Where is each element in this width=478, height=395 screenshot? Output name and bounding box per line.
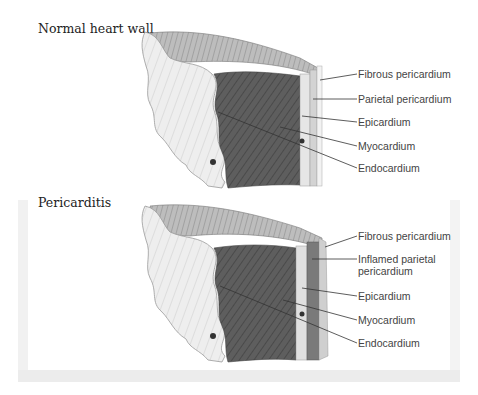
myocardium-layer [214,72,300,188]
label-myocardium: Myocardium [358,140,415,152]
parietal-pericardium-layer [310,70,317,186]
vessel [300,312,305,317]
label-parietal-pericardium: Parietal pericardium [358,93,451,105]
label-inflamed-parietal-line1: Inflamed parietal [358,253,436,265]
label-endocardium: Endocardium [358,162,420,174]
label-epicardium: Epicardium [358,290,411,302]
label-fibrous-pericardium: Fibrous pericardium [358,68,451,80]
label-inflamed-parietal-line2: pericardium [358,265,413,277]
epicardium-layer [300,74,310,186]
label-myocardium: Myocardium [358,314,415,326]
label-fibrous-pericardium: Fibrous pericardium [358,230,451,242]
label-epicardium: Epicardium [358,116,411,128]
myocardium-layer [214,245,296,362]
normal-heart-wall-illustration [142,32,357,188]
fibrous-pericardium-layer [319,238,328,360]
vessel [210,333,216,339]
inflamed-parietal-pericardium-layer [307,242,319,360]
pericarditis-illustration [142,205,357,362]
label-endocardium: Endocardium [358,337,420,349]
vessel [300,139,305,144]
epicardium-layer [296,246,307,360]
vessel [210,159,216,165]
heart-wall-illustrations [0,0,478,395]
fibrous-pericardium-layer [317,66,322,186]
